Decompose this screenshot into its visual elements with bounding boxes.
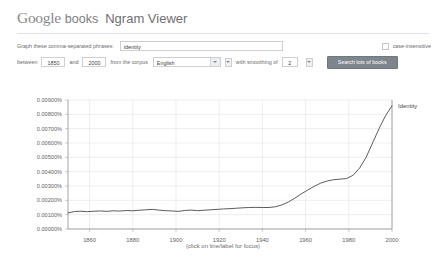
caret-glyph — [213, 61, 217, 63]
y-tick-label: 0.00800% — [37, 111, 62, 117]
case-insensitive-group[interactable]: case-insensitive — [382, 43, 431, 50]
google-wordmark: Google — [17, 9, 61, 27]
smoothing-input[interactable]: 2 — [282, 57, 298, 67]
y-tick-label: 0.00100% — [37, 212, 62, 218]
books-wordmark: books — [65, 12, 98, 26]
phrases-label: Graph these comma-separated phrases: — [17, 43, 114, 49]
smoothing-label: with smoothing of — [236, 59, 278, 65]
options-row: between 1850 and 2000 from the corpus En… — [17, 54, 431, 70]
chevron-down-icon[interactable] — [210, 58, 220, 66]
case-insensitive-label: case-insensitive — [393, 43, 431, 49]
ngram-chart[interactable]: 0.00000%0.00100%0.00200%0.00300%0.00400%… — [0, 88, 446, 267]
between-label: between — [17, 59, 37, 65]
chevron-down-icon — [307, 61, 311, 63]
chart-canvas[interactable]: 0.00000%0.00100%0.00200%0.00300%0.00400%… — [0, 88, 446, 267]
y-axis-tick-labels: 0.00000%0.00100%0.00200%0.00300%0.00400%… — [37, 97, 62, 232]
header-divider — [17, 33, 429, 34]
series-line[interactable] — [68, 106, 392, 213]
y-tick-label: 0.00300% — [37, 183, 62, 189]
y-tick-label: 0.00000% — [37, 226, 62, 232]
chart-series[interactable] — [68, 106, 392, 213]
phrases-input[interactable]: identity — [120, 41, 283, 51]
corpus-label: from the corpus — [110, 59, 147, 65]
corpus-select[interactable]: English — [153, 57, 221, 67]
year-start-input[interactable]: 1850 — [41, 57, 65, 67]
smoothing-dropdown-button[interactable] — [306, 58, 313, 67]
page-header: Google books Ngram Viewer — [0, 0, 446, 31]
and-label: and — [69, 59, 78, 65]
search-button[interactable]: Search lots of books — [327, 56, 398, 69]
brand-logo[interactable]: Google books Ngram Viewer — [17, 9, 446, 27]
corpus-dropdown-button[interactable] — [225, 58, 232, 67]
y-tick-label: 0.00600% — [37, 140, 62, 146]
year-end-input[interactable]: 2000 — [82, 57, 106, 67]
y-tick-label: 0.00200% — [37, 197, 62, 203]
chart-gridlines — [68, 100, 392, 229]
y-tick-label: 0.00500% — [37, 154, 62, 160]
chevron-down-icon — [226, 61, 230, 63]
series-label-identity[interactable]: Identity — [398, 103, 417, 109]
chart-footnote: (click on line/label for focus) — [0, 243, 446, 249]
series-label[interactable]: Identity — [398, 103, 417, 109]
query-form: Graph these comma-separated phrases: ide… — [17, 38, 431, 70]
chart-axes — [65, 100, 392, 232]
page-title: Ngram Viewer — [105, 11, 187, 26]
y-tick-label: 0.00400% — [37, 169, 62, 175]
checkbox-unchecked-icon[interactable] — [382, 43, 389, 50]
y-tick-label: 0.00700% — [37, 126, 62, 132]
phrases-row: Graph these comma-separated phrases: ide… — [17, 38, 431, 54]
y-tick-label: 0.00900% — [37, 97, 62, 103]
